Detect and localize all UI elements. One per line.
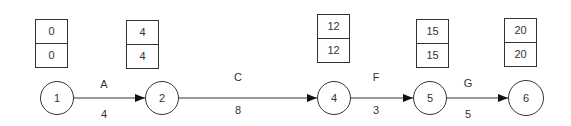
activity-label: F [373,71,380,83]
event-times-box: 00 [35,19,68,68]
earliest-time: 0 [36,20,67,44]
activity-label: G [464,77,473,89]
event-times-box: 1515 [416,19,449,68]
activity-duration: 5 [465,108,471,120]
activity-duration: 4 [101,108,107,120]
latest-time: 20 [505,43,536,67]
earliest-time: 20 [505,19,536,43]
activity-duration: 3 [373,104,379,116]
event-times-box: 44 [126,20,159,69]
latest-time: 4 [127,45,158,69]
activity-label: A [100,78,107,90]
event-node-6: 6 [508,80,544,116]
earliest-time: 15 [417,20,448,44]
edges-layer [0,0,571,126]
event-node-5: 5 [413,81,447,115]
latest-time: 15 [417,44,448,68]
network-diagram: A4C8F3G5100244412125151562020 [0,0,571,126]
event-node-4: 4 [317,81,351,115]
latest-time: 0 [36,44,67,68]
event-times-box: 2020 [504,18,537,67]
event-times-box: 1212 [317,14,350,63]
latest-time: 12 [318,39,349,63]
event-node-2: 2 [145,81,179,115]
event-node-1: 1 [40,81,74,115]
earliest-time: 12 [318,15,349,39]
activity-label: C [234,71,242,83]
earliest-time: 4 [127,21,158,45]
activity-duration: 8 [235,104,241,116]
